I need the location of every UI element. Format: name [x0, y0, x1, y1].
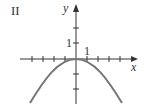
- y-axis-label: y: [62, 1, 69, 15]
- y-axis-arrow-icon: [73, 4, 79, 12]
- graph: y x 1 1: [0, 0, 144, 110]
- y-tick-label: 1: [66, 36, 72, 50]
- x-axis-label: x: [130, 60, 137, 74]
- x-tick-label: 1: [84, 44, 90, 58]
